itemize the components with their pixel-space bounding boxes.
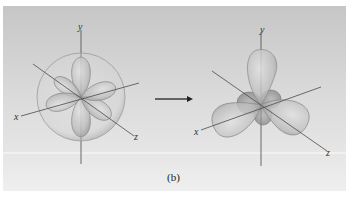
right-x-label: x [193, 126, 199, 137]
right-y-label: y [259, 24, 265, 35]
figure-caption: (b) [167, 171, 180, 184]
orbital-hybridization-figure: y x z y x z (b) [3, 6, 346, 191]
left-z-label: z [133, 131, 138, 142]
right-z-label: z [325, 147, 330, 158]
left-x-label: x [13, 111, 19, 122]
left-y-label: y [77, 21, 83, 32]
